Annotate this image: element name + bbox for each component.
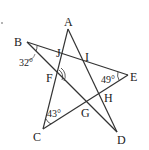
angle-arc-E (118, 72, 119, 80)
point-label-J: J (56, 46, 61, 60)
point-label-G: G (81, 106, 90, 120)
stray-dot (1, 22, 3, 24)
point-label-E: E (130, 70, 137, 84)
angle-label-C: 43° (47, 108, 61, 119)
angle-label-E: 49° (101, 74, 115, 85)
segment-BD (27, 42, 117, 132)
angle-arc-B (36, 46, 37, 51)
point-label-C: C (33, 130, 41, 144)
angle-arc-C (46, 119, 51, 124)
angle-label-B: 32° (19, 57, 33, 68)
angle-arc-F-inner (61, 68, 65, 81)
point-label-D: D (117, 133, 126, 147)
point-label-H: H (104, 91, 113, 105)
point-label-F: F (46, 71, 53, 85)
point-label-I: I (85, 50, 89, 64)
segment-BE (27, 42, 128, 75)
segment-CE (43, 75, 128, 129)
star-diagram: ABJIEFHGCD 32°49°43° (0, 0, 149, 150)
point-label-A: A (64, 15, 73, 29)
point-label-B: B (14, 35, 22, 49)
